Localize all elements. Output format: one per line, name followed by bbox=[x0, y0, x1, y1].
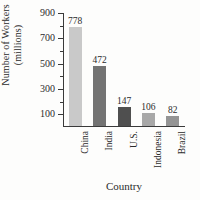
x-axis-line bbox=[63, 126, 185, 127]
x-axis-category-label: India bbox=[104, 131, 114, 151]
plot-area: 100300500700900 77847214710682 bbox=[63, 13, 185, 127]
y-axis-tick-minor bbox=[60, 26, 63, 27]
y-axis-title-line1: Number of Workers bbox=[0, 0, 12, 104]
x-axis-category-label: China bbox=[80, 131, 90, 154]
bar-value-label: 82 bbox=[168, 105, 178, 115]
y-axis-tick-major bbox=[58, 13, 63, 14]
bar-value-label: 147 bbox=[117, 96, 131, 106]
x-axis-category-label: Indonesia bbox=[153, 131, 163, 168]
x-axis-title: Country bbox=[63, 180, 185, 192]
y-axis-title: Number of Workers (millions) bbox=[0, 0, 30, 104]
y-axis-tick-label: 700 bbox=[40, 33, 55, 43]
bar: 82 bbox=[166, 116, 179, 126]
y-axis-line bbox=[63, 13, 64, 127]
y-axis-tick-label: 900 bbox=[40, 8, 55, 18]
y-axis-tick-minor bbox=[60, 102, 63, 103]
bar: 147 bbox=[118, 107, 131, 126]
x-axis-category-label: U.S. bbox=[129, 131, 139, 148]
bar: 106 bbox=[142, 113, 155, 126]
bar-chart: Number of Workers (millions) 10030050070… bbox=[0, 0, 200, 200]
y-axis-tick-minor bbox=[60, 51, 63, 52]
x-axis-category-label: Brazil bbox=[177, 131, 187, 154]
y-axis-tick-label: 500 bbox=[40, 59, 55, 69]
y-axis-tick-major bbox=[58, 89, 63, 90]
y-axis-tick-label: 100 bbox=[40, 109, 55, 119]
bar-value-label: 472 bbox=[92, 55, 106, 65]
y-axis-tick-major bbox=[58, 114, 63, 115]
bar-value-label: 778 bbox=[68, 16, 82, 26]
y-axis-tick-minor bbox=[60, 76, 63, 77]
y-axis-title-line2: (millions) bbox=[12, 0, 24, 104]
bar-value-label: 106 bbox=[141, 102, 155, 112]
y-axis-tick-label: 300 bbox=[40, 84, 55, 94]
y-axis-tick-major bbox=[58, 64, 63, 65]
bar: 472 bbox=[93, 66, 106, 126]
y-axis-tick-major bbox=[58, 38, 63, 39]
bar: 778 bbox=[69, 27, 82, 126]
